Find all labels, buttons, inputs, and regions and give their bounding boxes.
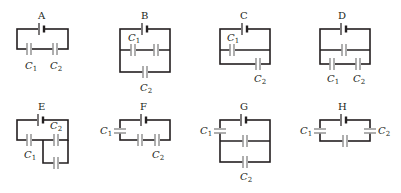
- label-c1: C1: [327, 73, 339, 86]
- battery-icon: [140, 114, 147, 126]
- capacitor-c2-icon: [243, 156, 248, 168]
- circuit-label: F: [140, 101, 147, 112]
- circuit-b: B C1 C2: [120, 10, 170, 95]
- battery-icon: [340, 114, 347, 126]
- capacitor-c2-icon: [143, 66, 148, 78]
- circuit-label: H: [338, 101, 347, 112]
- label-c2: C2: [240, 171, 252, 184]
- circuit-label: C: [240, 10, 248, 21]
- battery-icon: [141, 23, 148, 35]
- label-c1: C1: [128, 32, 140, 45]
- capacitor-unlabeled-icon: [342, 44, 347, 56]
- circuit-g: G C1 C2: [200, 101, 270, 184]
- circuit-label: D: [338, 10, 346, 21]
- capacitor-c2-icon: [356, 58, 361, 70]
- battery-icon: [240, 114, 247, 126]
- capacitor-c2-icon: [155, 134, 160, 146]
- label-c2: C2: [140, 82, 152, 95]
- label-c2: C2: [50, 60, 62, 73]
- circuit-label: E: [38, 101, 45, 112]
- capacitor-c1-icon: [131, 44, 136, 56]
- label-c1: C1: [300, 125, 312, 138]
- circuit-diagram-figure: A C1 C2 B: [0, 0, 401, 193]
- capacitor-c1-icon: [27, 43, 32, 55]
- circuit-label: A: [37, 10, 46, 21]
- circuit-h: H C1 C2: [300, 101, 390, 147]
- label-c1: C1: [227, 32, 239, 45]
- capacitor-c2-icon: [53, 43, 58, 55]
- capacitor-c2-icon: [54, 134, 59, 146]
- capacitor-c2-icon: [256, 58, 261, 70]
- capacitor-unlabeled-icon: [154, 44, 159, 56]
- battery-icon: [340, 23, 347, 35]
- label-c1: C1: [25, 60, 37, 73]
- label-c1: C1: [200, 125, 212, 138]
- label-c2: C2: [378, 125, 390, 138]
- circuit-a: A C1 C2: [17, 10, 68, 73]
- capacitor-c1-icon: [27, 134, 32, 146]
- capacitor-c1-icon: [330, 58, 335, 70]
- label-c1: C1: [24, 149, 36, 162]
- label-c1: C1: [100, 125, 112, 138]
- label-c2: C2: [152, 149, 164, 162]
- capacitor-unlabeled-icon: [138, 134, 143, 146]
- circuit-c: C C1 C2: [220, 10, 270, 86]
- circuit-f: F C1 C2: [100, 101, 170, 162]
- label-c2: C2: [50, 120, 62, 133]
- capacitor-c1-icon: [314, 128, 326, 133]
- circuit-label: B: [141, 10, 148, 21]
- capacitor-c1-icon: [114, 128, 126, 133]
- circuit-label: G: [240, 101, 248, 112]
- capacitor-unlabeled-icon: [343, 135, 348, 147]
- circuit-d: D C1 C2: [320, 10, 370, 86]
- capacitor-c1-icon: [214, 128, 226, 133]
- circuit-e: E C2 C1: [17, 101, 68, 169]
- battery-icon: [37, 114, 44, 126]
- label-c2: C2: [353, 73, 365, 86]
- capacitor-c2-icon: [364, 128, 376, 133]
- capacitor-unlabeled-icon: [243, 135, 248, 147]
- capacitor-c1-icon: [230, 44, 235, 56]
- battery-icon: [38, 23, 45, 35]
- battery-icon: [241, 23, 248, 35]
- capacitor-unlabeled-icon: [54, 157, 59, 169]
- label-c2: C2: [254, 73, 266, 86]
